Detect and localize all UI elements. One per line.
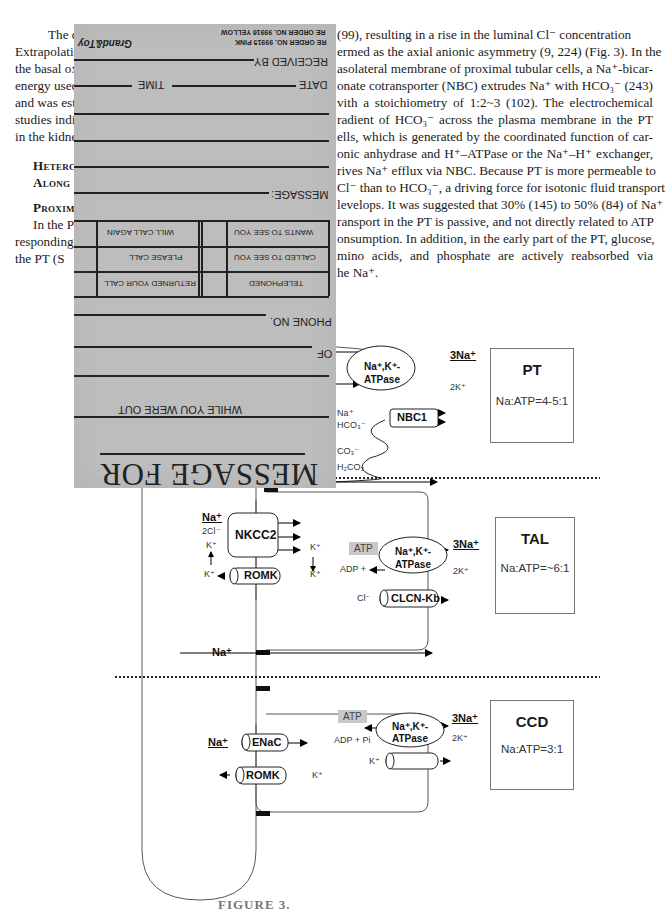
tal-nkcc2-label: NKCC2 xyxy=(235,528,276,542)
segment-ratio: Na:ATP=~6:1 xyxy=(496,562,574,574)
tal-k-cell-label: K⁺ xyxy=(310,569,321,579)
segment-ratio: Na:ATP=3:1 xyxy=(491,743,573,755)
pt-pump-label-1: Na⁺,K⁺- xyxy=(362,361,402,372)
ccd-k-label: K⁺ xyxy=(312,770,323,780)
segment-box-ccd: CCD Na:ATP=3:1 xyxy=(490,700,574,790)
tal-atp-label: ATP xyxy=(349,542,378,555)
tal-pump-label-2: ATPase xyxy=(393,559,433,570)
message-for-heading: MESSAGE FOR xyxy=(100,456,318,492)
order-code-yellow: RE ORDER NO. 99916 YELLOW xyxy=(221,29,326,36)
tal-k-out-label: K⁺ xyxy=(310,542,321,552)
time-label: TIME xyxy=(138,79,164,91)
phone-no-label: PHONE NO. xyxy=(270,316,332,328)
tal-adp-label: ADP + xyxy=(340,564,366,574)
message-note-pad: Grand&Toy RE ORDER NO. 99916 YELLOW RE O… xyxy=(74,24,336,488)
pt-h2co3-label: H₂CO₃ xyxy=(337,462,364,472)
ccd-2k-label: 2K⁺ xyxy=(452,733,468,743)
pt-nbc1-label: NBC1 xyxy=(397,411,427,423)
ccd-3na-label: 3Na⁺ xyxy=(452,712,478,725)
ccd-atp-label: ATP xyxy=(338,710,367,723)
pt-na-label: Na⁺ xyxy=(337,408,354,418)
checkbox-wants-to-see-you[interactable]: WANTS TO SEE YOU xyxy=(234,228,313,237)
segment-title: CCD xyxy=(491,713,573,730)
ccd-pump-label-2: ATPase xyxy=(390,733,430,744)
checkbox-returned-your-call[interactable]: RETURNED YOUR CALL xyxy=(104,279,196,288)
tal-cl-label: Cl⁻ xyxy=(357,593,371,603)
tal-para-na-label: Na⁺ xyxy=(212,646,232,659)
of-label: OF xyxy=(317,348,332,360)
pt-pump-label-2: ATPase xyxy=(362,374,402,385)
figure-caption: FIGURE 3. xyxy=(218,897,291,913)
tal-k-label: K⁺ xyxy=(206,540,217,550)
tal-3na-label: 3Na⁺ xyxy=(453,538,479,551)
while-you-were-out-label: WHILE YOU WERE OUT xyxy=(118,404,242,416)
tal-romk-label: ROMK xyxy=(244,569,278,581)
tal-na-label: Na⁺ xyxy=(202,511,222,524)
pt-o3-label: CO₃⁻ xyxy=(337,446,359,456)
ccd-romk-label: ROMK xyxy=(246,769,280,781)
ccd-na-label: Na⁺ xyxy=(208,736,228,749)
message-label: MESSAGE: xyxy=(271,189,328,201)
ccd-enac-label: ENaC xyxy=(252,736,281,748)
brand-logo: Grand&Toy xyxy=(78,38,132,49)
ccd-pump-label-1: Na⁺,K⁺- xyxy=(390,721,430,732)
tal-pump-label-1: Na⁺,K⁺- xyxy=(393,546,433,557)
ccd-k-channel-label: K⁺ xyxy=(369,756,380,766)
checkbox-please-call[interactable]: PLEASE CALL xyxy=(129,253,182,262)
date-label: DATE xyxy=(299,79,328,91)
tal-k-lumen-label: K⁺ xyxy=(204,569,215,579)
segment-ratio: Na:ATP=4-5:1 xyxy=(491,395,573,407)
checkbox-will-call-again[interactable]: WILL CALL AGAIN xyxy=(107,228,174,237)
segment-title: PT xyxy=(491,361,573,378)
tal-2cl-label: 2Cl⁻ xyxy=(202,526,221,536)
checkbox-called-to-see-you[interactable]: CALLED TO SEE YOU xyxy=(234,253,316,262)
checkbox-telephoned[interactable]: TELEPHONED xyxy=(249,279,303,288)
segment-box-tal: TAL Na:ATP=~6:1 xyxy=(495,517,575,614)
received-by-label: RECEIVED BY xyxy=(254,56,328,68)
order-code-pink: RE ORDER NO. 99915 PINK xyxy=(235,39,326,46)
tal-2k-label: 2K⁺ xyxy=(453,566,469,576)
segment-title: TAL xyxy=(496,530,574,547)
pt-2k-label: 2K⁺ xyxy=(450,382,466,392)
pt-co3-label: HCO₃⁻ xyxy=(337,420,366,430)
ccd-adp-label: ADP + Pi xyxy=(334,735,371,745)
tal-clcn-label: CLCN-Kb xyxy=(391,592,440,604)
pt-3na-label: 3Na⁺ xyxy=(450,349,476,362)
segment-box-pt: PT Na:ATP=4-5:1 xyxy=(490,348,574,443)
